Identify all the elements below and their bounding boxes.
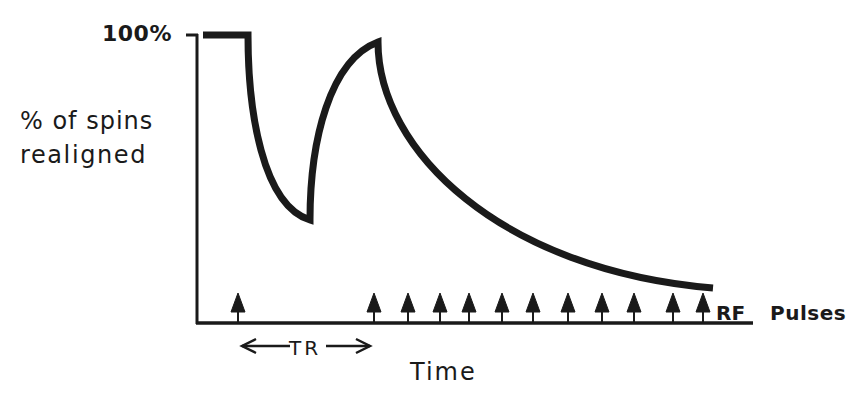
- rf-pulse-arrow-icon: [627, 293, 641, 322]
- rf-pulse-arrow-icon: [595, 293, 609, 322]
- y-axis-title-line2: realigned: [20, 141, 147, 169]
- realignment-curve: [203, 35, 713, 288]
- rf-pulse-arrow-icon: [401, 293, 415, 322]
- rf-pulse-arrow-icon: [367, 293, 381, 322]
- rf-pulse-arrow-icon: [666, 293, 680, 322]
- y-axis-title-line1: % of spins: [20, 107, 153, 135]
- diagram-canvas: [0, 0, 864, 398]
- rf-pulse-arrow-icon: [462, 293, 476, 322]
- tr-interval-label: TR: [289, 336, 321, 360]
- rf-pulse-arrow-icon: [495, 293, 509, 322]
- rf-pulse-arrow-icon: [696, 293, 710, 322]
- y-axis-top-tick-label: 100%: [102, 21, 172, 46]
- x-axis-title: Time: [410, 358, 477, 386]
- rf-pulse-arrow-icon: [433, 293, 447, 322]
- rf-pulse-arrow-icon: [231, 293, 245, 322]
- rf-pulse-arrow-icon: [561, 293, 575, 322]
- rf-pulse-arrow-icon: [526, 293, 540, 322]
- rf-label: RF: [716, 301, 745, 325]
- pulses-label: Pulses: [770, 301, 846, 325]
- rf-pulse-markers: [231, 293, 710, 322]
